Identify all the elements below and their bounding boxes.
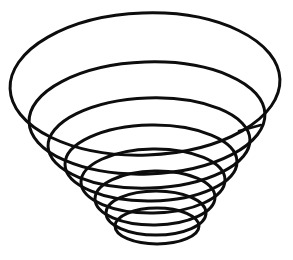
figure-root: Wireframe bowl Black line drawing of a b… xyxy=(0,0,293,260)
wireframe-bowl-drawing xyxy=(0,0,293,260)
